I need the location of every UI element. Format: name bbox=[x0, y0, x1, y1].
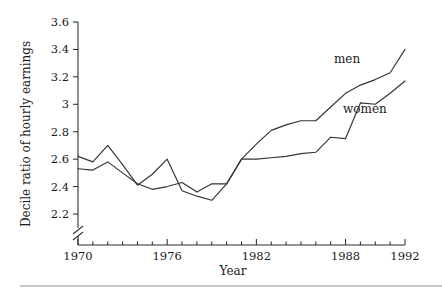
y-tick-label: 2.2 bbox=[51, 207, 69, 221]
x-tick-label-1982: 1982 bbox=[242, 249, 271, 263]
y-tick-label: 2.4 bbox=[51, 180, 69, 194]
decile-ratio-line-chart: 2.22.42.62.833.23.43.6 19701976198219881… bbox=[0, 0, 442, 296]
y-tick-label: 3 bbox=[62, 97, 69, 111]
y-tick-label: 3.6 bbox=[51, 15, 69, 29]
x-tick-label-1970: 1970 bbox=[63, 249, 92, 263]
x-tick-label-1976: 1976 bbox=[153, 249, 182, 263]
x-axis-title: Year bbox=[219, 264, 247, 278]
series-label-men: men bbox=[334, 52, 360, 66]
series-label-women: women bbox=[343, 102, 387, 116]
y-tick-label: 2.8 bbox=[51, 125, 69, 139]
y-axis-title: Decile ratio of hourly earnings bbox=[19, 41, 33, 227]
chart-figure: 2.22.42.62.833.23.43.6 19701976198219881… bbox=[0, 0, 442, 296]
y-tick-label: 3.2 bbox=[51, 70, 69, 84]
x-tick-label-1992: 1992 bbox=[390, 249, 419, 263]
x-tick-label-1988: 1988 bbox=[331, 249, 360, 263]
y-tick-label: 2.6 bbox=[51, 152, 69, 166]
y-tick-label: 3.4 bbox=[51, 42, 69, 56]
